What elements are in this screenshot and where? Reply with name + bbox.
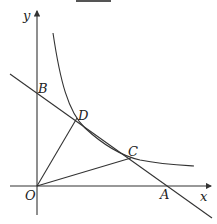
diagram-canvas: y x O B D C A bbox=[0, 0, 217, 224]
point-c-label: C bbox=[128, 144, 138, 159]
point-a-label: A bbox=[159, 187, 169, 202]
x-axis-label: x bbox=[200, 189, 208, 204]
hyperbola bbox=[53, 33, 194, 166]
point-d-label: D bbox=[77, 108, 89, 123]
top-bar bbox=[76, 0, 111, 2]
point-b-label: B bbox=[37, 81, 48, 96]
y-axis-label: y bbox=[22, 8, 31, 23]
origin-label: O bbox=[25, 188, 36, 203]
